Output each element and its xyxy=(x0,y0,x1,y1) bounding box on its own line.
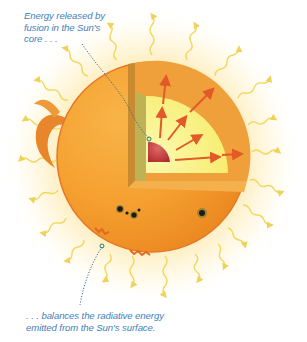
caption-line: Energy released by xyxy=(24,10,134,22)
caption-core-fusion: Energy released by fusion in the Sun's c… xyxy=(24,10,134,45)
caption-line: . . . balances the radiative energy xyxy=(26,310,226,322)
caption-line: core . . . xyxy=(24,33,134,45)
cutaway-inner-face xyxy=(135,92,146,181)
caption-line: fusion in the Sun's xyxy=(24,22,134,34)
caption-line: emitted from the Sun's surface. xyxy=(26,322,226,334)
caption-surface-radiation: . . . balances the radiative energy emit… xyxy=(26,310,226,333)
sun-diagram: Energy released by fusion in the Sun's c… xyxy=(0,0,307,342)
cutaway-left-edge xyxy=(128,63,135,188)
sun-illustration xyxy=(0,0,307,342)
